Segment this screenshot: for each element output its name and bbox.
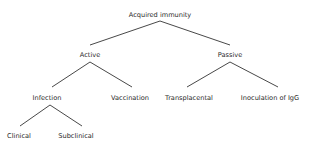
edge-passive-to-inoculation (230, 62, 278, 87)
edge-active-to-infection (52, 62, 90, 87)
node-clinical: Clinical (7, 133, 31, 140)
node-vaccination: Vaccination (111, 95, 149, 102)
node-infection: Infection (33, 95, 62, 102)
edge-passive-to-transplacental (187, 62, 230, 87)
node-active: Active (80, 52, 100, 59)
edge-infection-to-clinical (20, 105, 50, 126)
node-passive: Passive (218, 52, 242, 59)
node-subclinical: Subclinical (58, 133, 93, 140)
edge-active-to-vaccination (90, 62, 132, 87)
edge-infection-to-subclinical (50, 105, 82, 126)
edge-root-to-active (90, 21, 160, 45)
node-acquired-immunity: Acquired immunity (129, 12, 191, 19)
node-inoculation-of-igg: Inoculation of IgG (241, 95, 299, 102)
immunity-tree-diagram: Acquired immunity Active Passive Infecti… (0, 0, 314, 145)
edge-root-to-passive (160, 21, 230, 45)
tree-edges (0, 0, 314, 145)
node-transplacental: Transplacental (165, 95, 213, 102)
